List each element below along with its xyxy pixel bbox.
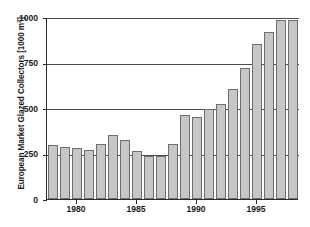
bar: [264, 32, 274, 199]
bar: [240, 68, 250, 199]
bar: [144, 156, 154, 199]
bar: [252, 44, 262, 199]
bar: [288, 20, 298, 199]
bar: [216, 104, 226, 199]
bar: [60, 147, 70, 199]
y-axis-tick-label: 1000: [0, 14, 38, 23]
x-axis-tick-label: 1980: [56, 205, 96, 214]
bar: [276, 20, 286, 199]
y-axis-title-container: European Market Glazed Collectors [1000 …: [0, 0, 22, 227]
x-axis: 1980198519901995: [46, 200, 298, 226]
x-axis-tick-label: 1995: [236, 205, 276, 214]
bar: [156, 156, 166, 199]
bar: [204, 109, 214, 199]
bar: [108, 135, 118, 199]
y-axis-tick-label: 500: [0, 105, 38, 114]
bar: [48, 145, 58, 199]
bar: [180, 115, 190, 199]
bar: [132, 151, 142, 199]
x-axis-tick-label: 1990: [176, 205, 216, 214]
y-axis-tick-label: 250: [0, 150, 38, 159]
y-axis-tick-label: 750: [0, 59, 38, 68]
chart-figure: European Market Glazed Collectors [1000 …: [0, 0, 310, 227]
bar: [120, 140, 130, 199]
bar-series: [47, 17, 299, 199]
bar: [228, 89, 238, 199]
bar: [96, 144, 106, 199]
x-axis-tick-label: 1985: [116, 205, 156, 214]
bar: [84, 150, 94, 200]
plot-area: [46, 18, 298, 200]
bar: [168, 144, 178, 199]
bar: [72, 148, 82, 199]
bar: [192, 117, 202, 199]
y-axis-tick-label: 0: [0, 196, 38, 205]
